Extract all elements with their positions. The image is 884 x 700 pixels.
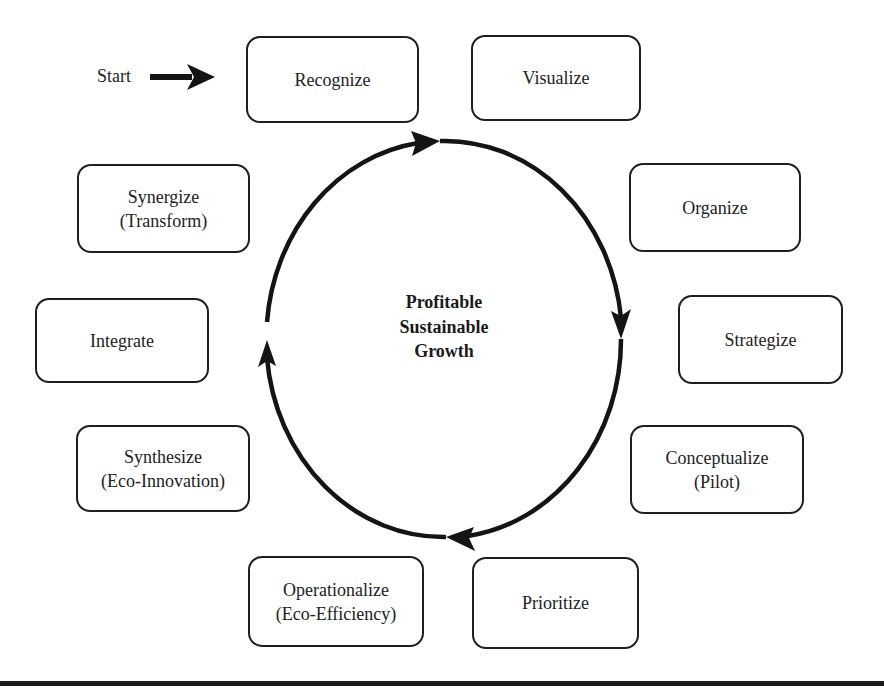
step-label: Synergize — [128, 185, 200, 209]
step-label: Organize — [682, 196, 748, 220]
start-arrow-icon — [150, 64, 215, 90]
step-recognize: Recognize — [246, 36, 419, 123]
step-organize: Organize — [629, 163, 801, 252]
step-label: Conceptualize — [666, 446, 769, 470]
center-line: Sustainable — [364, 315, 524, 340]
center-goal-label: Profitable Sustainable Growth — [364, 290, 524, 364]
step-synergize: Synergize (Transform) — [77, 164, 250, 253]
step-conceptualize: Conceptualize (Pilot) — [630, 425, 804, 514]
arrowhead-bottom-icon — [446, 527, 475, 551]
step-label: Strategize — [725, 328, 797, 352]
center-line: Growth — [364, 339, 524, 364]
center-line: Profitable — [364, 290, 524, 315]
arc-bottom-left — [267, 358, 446, 537]
step-label: Prioritize — [522, 591, 589, 615]
step-strategize: Strategize — [678, 295, 843, 384]
step-label: Synthesize — [124, 445, 202, 469]
step-synthesize: Synthesize (Eco-Innovation) — [76, 425, 250, 512]
step-operationalize: Operationalize (Eco-Efficiency) — [248, 556, 424, 647]
step-sublabel: (Eco-Efficiency) — [276, 602, 397, 626]
start-label: Start — [97, 64, 131, 88]
step-sublabel: (Eco-Innovation) — [101, 469, 225, 493]
step-integrate: Integrate — [35, 298, 209, 383]
step-label: Operationalize — [283, 578, 389, 602]
arc-right-bottom — [468, 339, 621, 536]
step-label: Recognize — [295, 68, 371, 92]
step-sublabel: (Pilot) — [694, 470, 740, 494]
step-label: Visualize — [523, 66, 590, 90]
step-sublabel: (Transform) — [120, 209, 207, 233]
step-prioritize: Prioritize — [472, 557, 639, 649]
bottom-rule — [0, 681, 884, 686]
step-label: Integrate — [90, 329, 154, 353]
step-visualize: Visualize — [471, 35, 641, 121]
